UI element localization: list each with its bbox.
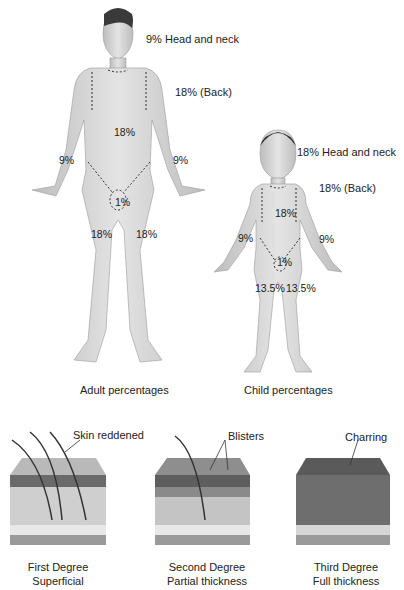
- first-degree-caption: First Degree Superficial: [10, 560, 106, 588]
- adult-right-leg-label: 18%: [136, 229, 157, 240]
- charring-label: Charring: [345, 431, 387, 443]
- child-caption: Child percentages: [244, 384, 333, 396]
- adult-left-leg-label: 18%: [91, 229, 112, 240]
- child-figure: [214, 130, 342, 372]
- blisters-label: Blisters: [228, 430, 264, 442]
- child-left-arm-label: 9%: [238, 233, 253, 244]
- child-back-label: 18% (Back): [319, 182, 376, 194]
- adult-trunk-label: 18%: [114, 127, 135, 138]
- second-degree-title: Second Degree: [152, 560, 262, 574]
- child-right-arm-label: 9%: [319, 234, 334, 245]
- first-degree-title: First Degree: [10, 560, 106, 574]
- third-degree-title: Third Degree: [296, 560, 396, 574]
- adult-back-label: 18% (Back): [175, 86, 232, 98]
- third-degree-block: [296, 440, 390, 545]
- child-trunk-label: 18%: [275, 208, 296, 219]
- second-degree-block: [155, 436, 250, 545]
- child-left-leg-label: 13.5%: [255, 283, 285, 294]
- first-degree-subtitle: Superficial: [10, 574, 106, 588]
- second-degree-caption: Second Degree Partial thickness: [152, 560, 262, 588]
- first-degree-block: [10, 432, 106, 545]
- body-figures: [0, 0, 404, 400]
- third-degree-caption: Third Degree Full thickness: [296, 560, 396, 588]
- third-degree-subtitle: Full thickness: [296, 574, 396, 588]
- adult-head-neck-label: 9% Head and neck: [146, 33, 239, 45]
- adult-caption: Adult percentages: [80, 384, 169, 396]
- child-right-leg-label: 13.5%: [286, 283, 316, 294]
- adult-figure: [32, 8, 205, 362]
- skin-reddened-label: Skin reddened: [73, 429, 144, 441]
- child-head-neck-label: 18% Head and neck: [297, 146, 396, 158]
- child-genitals-label: 1%: [277, 257, 292, 268]
- second-degree-subtitle: Partial thickness: [152, 574, 262, 588]
- adult-left-arm-label: 9%: [59, 155, 74, 166]
- adult-right-arm-label: 9%: [173, 155, 188, 166]
- adult-genitals-label: 1%: [115, 197, 130, 208]
